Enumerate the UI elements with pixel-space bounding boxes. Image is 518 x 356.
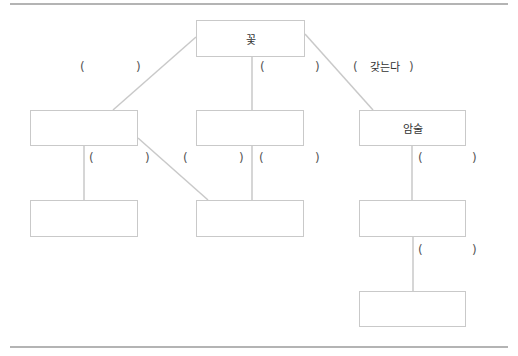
edge-label-open-top-mid-right: (	[353, 60, 358, 74]
node-bottom-right[interactable]	[359, 291, 466, 327]
node-low-left[interactable]	[30, 200, 138, 237]
node-mid-left[interactable]	[30, 110, 138, 146]
edge-label-close-mid-left-low-center: )	[239, 151, 244, 165]
node-mid-center[interactable]	[196, 110, 304, 146]
edge-label-open-top-mid-left: (	[80, 60, 85, 74]
node-mid-right: 암술	[359, 110, 466, 146]
edge-top-to-mid-left	[113, 37, 196, 110]
edge-label-close-low-right-bottom-right: )	[472, 243, 477, 257]
edge-label-close-mid-right-low-right: )	[472, 151, 477, 165]
edge-label-close-top-mid-left: )	[136, 60, 141, 74]
edge-mid-left-to-low-center	[138, 138, 208, 200]
node-top: 꽃	[196, 20, 305, 57]
edge-label-open-low-right-bottom-right: (	[418, 243, 423, 257]
edge-label-open-top-mid-center: (	[260, 60, 265, 74]
edge-label-close-mid-center-low-center: )	[315, 151, 320, 165]
edge-label-open-mid-left-low-left: (	[89, 151, 94, 165]
edge-label-close-mid-left-low-left: )	[145, 151, 150, 165]
edge-label-open-mid-left-low-center: (	[183, 151, 188, 165]
edge-label-top-mid-right: 갖는다	[370, 61, 400, 75]
edge-label-open-mid-center-low-center: (	[259, 151, 264, 165]
node-mid-right-label: 암술	[403, 120, 423, 136]
edge-label-open-mid-right-low-right: (	[418, 151, 423, 165]
node-low-right[interactable]	[359, 200, 466, 237]
edge-label-close-top-mid-right: )	[409, 60, 414, 74]
edge-label-close-top-mid-center: )	[315, 60, 320, 74]
node-top-label: 꽃	[246, 31, 256, 47]
node-low-center[interactable]	[196, 200, 304, 237]
